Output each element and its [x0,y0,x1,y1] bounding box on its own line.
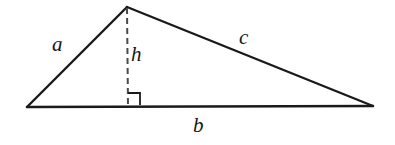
altitude-dashed-line [127,8,128,106]
right-angle-marker [128,93,140,105]
label-height-h: h [131,44,142,65]
label-side-a: a [52,34,63,55]
side-a-line [27,7,127,107]
label-side-b: b [193,115,204,136]
triangle-figure: a h c b [0,0,395,145]
label-side-c: c [239,27,248,48]
side-b-line [27,106,373,107]
side-c-line [127,7,373,106]
